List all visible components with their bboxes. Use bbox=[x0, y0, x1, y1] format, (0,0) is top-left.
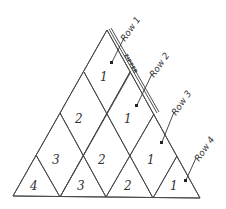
cell-r4-1: 1 bbox=[170, 179, 178, 193]
cell-r4-2: 2 bbox=[123, 179, 132, 193]
cell-r3-3: 3 bbox=[52, 153, 60, 167]
row-label-4: Row 4 bbox=[184, 134, 217, 182]
cell-r2-2: 2 bbox=[74, 112, 83, 126]
cell-r4-4: 4 bbox=[29, 179, 38, 193]
cell-r3-2: 2 bbox=[97, 153, 106, 167]
cell-r2-1: 1 bbox=[124, 112, 132, 126]
cell-r1-1: 1 bbox=[100, 70, 108, 84]
cell-r4-3: 3 bbox=[77, 179, 85, 193]
triangle-diagram: ZIPPER 1 2 1 3 2 1 4 3 2 1 Row 1 Row 2 R… bbox=[0, 0, 226, 209]
cell-r3-1: 1 bbox=[147, 153, 155, 167]
